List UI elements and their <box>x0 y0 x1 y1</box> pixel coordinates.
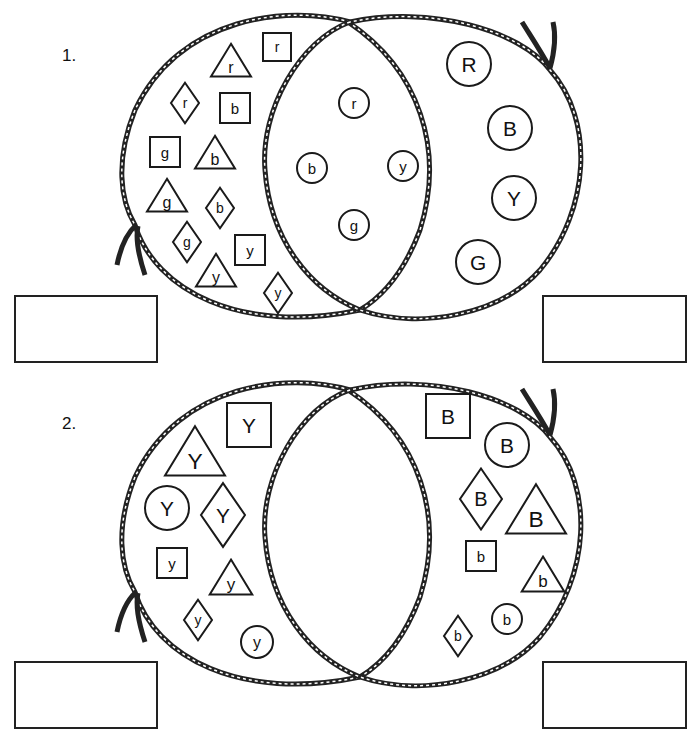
token-label: g <box>350 217 358 234</box>
token-label: B <box>500 434 514 457</box>
token-label: g <box>163 194 172 211</box>
circle-token-both: r <box>339 88 369 118</box>
problem-2-right-loop <box>265 384 581 686</box>
diamond-token-right-only: B <box>460 469 502 530</box>
circle-token-right-only: B <box>488 106 532 150</box>
triangle-token-left-only: Y <box>165 426 225 475</box>
triangle-token-right-only: b <box>522 557 565 592</box>
circle-token-right-only: R <box>447 42 491 86</box>
token-label: b <box>538 572 547 591</box>
token-label: b <box>454 628 462 644</box>
square-token-left-only: g <box>150 137 180 167</box>
diamond-token-left-only: r <box>171 83 199 124</box>
token-label: r <box>228 59 234 76</box>
token-label: r <box>352 95 357 112</box>
triangle-token-right-only: B <box>506 484 566 533</box>
token-label: Y <box>242 414 256 437</box>
token-label: r <box>275 39 280 55</box>
token-label: Y <box>187 448 202 474</box>
problem-2-answer-box-left[interactable] <box>14 661 158 729</box>
token-label: y <box>212 269 220 286</box>
square-token-right-only: B <box>426 394 470 438</box>
triangle-token-left-only: y <box>210 560 253 595</box>
triangle-token-left-only: b <box>195 136 235 169</box>
diamond-token-left-only: b <box>206 188 234 229</box>
diamond-token-right-only: b <box>444 616 472 657</box>
token-label: B <box>474 488 487 510</box>
problem-2-answer-box-right[interactable] <box>542 661 687 729</box>
token-label: G <box>470 251 486 274</box>
token-label: r <box>183 95 188 111</box>
token-label: y <box>227 575 236 594</box>
token-label: b <box>211 151 220 168</box>
token-label: R <box>461 53 476 76</box>
token-label: b <box>308 160 316 177</box>
token-label: y <box>195 612 202 628</box>
token-label: y <box>399 158 407 175</box>
square-token-left-only: Y <box>227 403 271 447</box>
circle-token-right-only: B <box>485 423 529 467</box>
token-label: y <box>253 634 261 651</box>
circle-token-left-only: y <box>241 626 273 658</box>
triangle-token-left-only: y <box>196 254 236 287</box>
diamond-token-left-only: y <box>264 273 292 314</box>
token-label: b <box>231 100 239 117</box>
token-label: y <box>168 555 176 572</box>
token-label: b <box>477 548 485 565</box>
circle-token-both: b <box>297 153 327 183</box>
square-token-left-only: b <box>220 93 250 123</box>
circle-token-left-only: Y <box>145 486 189 530</box>
token-label: B <box>528 506 543 532</box>
problem-1-answer-box-left[interactable] <box>14 295 158 363</box>
circle-token-right-only: G <box>456 240 500 284</box>
circle-token-right-only: b <box>492 604 522 634</box>
triangle-token-left-only: g <box>147 179 187 212</box>
venn-diagrams-canvas: rrrbgbbggyyyrbygRBYGYYYYyyyyBBBBbbbb <box>0 0 699 747</box>
diamond-token-left-only: y <box>184 600 212 641</box>
token-label: B <box>503 117 517 140</box>
square-token-left-only: y <box>235 235 265 265</box>
circle-token-right-only: Y <box>492 176 536 220</box>
diamond-token-left-only: g <box>173 222 201 263</box>
token-label: B <box>441 405 455 428</box>
token-label: y <box>275 285 282 301</box>
token-label: g <box>161 144 169 161</box>
token-label: b <box>216 200 224 216</box>
triangle-token-left-only: r <box>211 44 251 77</box>
token-label: Y <box>160 497 174 520</box>
square-token-left-only: r <box>263 33 291 61</box>
square-token-right-only: b <box>466 541 496 571</box>
token-label: y <box>246 242 254 259</box>
circle-token-both: g <box>339 210 369 240</box>
token-label: b <box>503 611 511 628</box>
token-label: Y <box>507 187 521 210</box>
circle-token-both: y <box>388 151 418 181</box>
square-token-left-only: y <box>157 548 187 578</box>
diamond-token-left-only: Y <box>201 483 245 547</box>
problem-1-answer-box-right[interactable] <box>542 295 687 363</box>
token-label: Y <box>216 504 230 527</box>
token-label: g <box>183 234 191 250</box>
